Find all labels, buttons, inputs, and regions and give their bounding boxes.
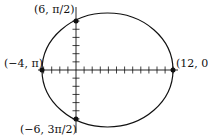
point-top [74, 19, 79, 24]
label-bottom-point: (−6, 3π/2) [20, 124, 77, 135]
point-bottom [74, 117, 79, 122]
point-right [171, 68, 176, 73]
label-left-point: (−4, π) [4, 58, 43, 69]
label-right-point: (12, 0) [176, 58, 208, 69]
label-top-point: (6, π/2) [34, 4, 75, 15]
